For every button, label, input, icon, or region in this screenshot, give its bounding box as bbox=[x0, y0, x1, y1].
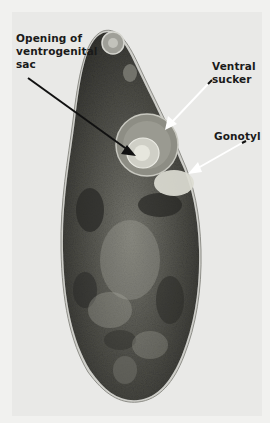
label-ventral-sucker: Ventral sucker bbox=[212, 60, 268, 86]
specimen-figure: Opening of ventrogenital sac Ventral suc… bbox=[0, 0, 270, 423]
gonotyl bbox=[154, 170, 194, 196]
label-gonotyl: Gonotyl bbox=[214, 130, 270, 143]
label-line: sucker bbox=[212, 73, 268, 86]
label-line: Ventral bbox=[212, 60, 268, 73]
pharynx bbox=[123, 64, 137, 82]
label-line: sac bbox=[16, 58, 116, 71]
label-line: Gonotyl bbox=[214, 130, 270, 143]
label-line: ventrogenital bbox=[16, 45, 116, 58]
arrow-gonotyl bbox=[188, 141, 246, 174]
label-ventrogenital-sac-opening: Opening of ventrogenital sac bbox=[16, 32, 116, 71]
arrow-ventral-sucker bbox=[165, 80, 212, 130]
label-line: Opening of bbox=[16, 32, 116, 45]
